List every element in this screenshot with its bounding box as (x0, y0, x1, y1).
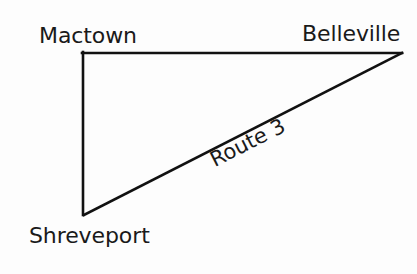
vertex-label-mactown: Mactown (39, 25, 137, 47)
route-diagram: Mactown Belleville Shreveport Route 3 (0, 0, 417, 274)
vertex-label-shreveport: Shreveport (29, 225, 150, 247)
vertex-label-belleville: Belleville (302, 23, 400, 45)
